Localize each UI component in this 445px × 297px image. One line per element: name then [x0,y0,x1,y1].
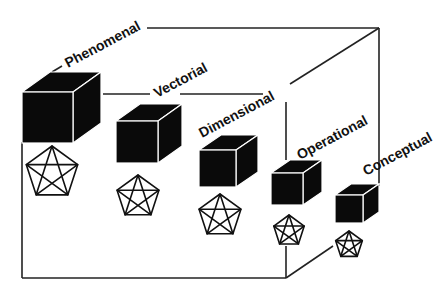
cube-icon [271,160,322,205]
cube-icon [199,135,258,187]
cube-front-face [199,150,236,187]
level-label-operational: Operational [294,112,370,163]
level-conceptual: Conceptual [335,129,435,257]
frame-phenomenal-tick [52,66,62,72]
cube-icon [116,104,182,163]
pentagram-icon [336,231,363,256]
levels-group: PhenomenalVectorialDimensionalOperationa… [22,17,435,256]
frame-top-diagonal [290,28,379,84]
level-label-dimensional: Dimensional [196,87,277,140]
frame-bottom-diagonal [286,246,333,278]
pentagram-icon [26,146,77,195]
cube-front-face [116,121,158,163]
pentagram-icon [117,175,159,215]
cube-icon [335,184,379,223]
cube-icon [22,72,101,143]
pentagram-icon [199,194,241,234]
level-label-phenomenal: Phenomenal [62,17,143,70]
level-dimensional: Dimensional [196,87,277,233]
level-vectorial: Vectorial [116,59,210,215]
cube-front-face [335,195,363,223]
level-label-conceptual: Conceptual [360,129,435,179]
pentagram-icon [274,215,304,244]
cube-front-face [22,92,73,143]
cube-front-face [271,173,303,205]
cube-hierarchy-diagram: PhenomenalVectorialDimensionalOperationa… [0,0,445,297]
level-phenomenal: Phenomenal [22,17,143,194]
